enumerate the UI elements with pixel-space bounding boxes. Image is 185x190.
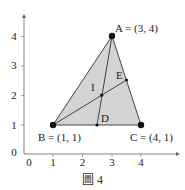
y-tick-1: 1 (11, 119, 17, 131)
y-tick-2: 2 (11, 89, 17, 101)
label-a: A = (3, 4) (115, 22, 158, 35)
y-tick-3: 3 (11, 59, 17, 71)
y-axis-arrow-icon (22, 14, 26, 18)
point-c (138, 122, 144, 128)
diagram-canvas: 0 1 2 3 4 0 1 2 3 4 A = (3, 4) B = (1, 1… (0, 0, 185, 190)
x-tick-labels: 0 1 2 3 4 (26, 156, 144, 168)
point-b (50, 122, 56, 128)
point-d (95, 123, 98, 126)
x-tick-1: 1 (50, 156, 56, 168)
y-tick-0: 0 (11, 146, 17, 158)
x-tick-2: 2 (80, 156, 86, 168)
label-i: I (91, 81, 95, 93)
label-c: C = (4, 1) (130, 131, 173, 144)
x-tick-4: 4 (138, 156, 144, 168)
y-tick-4: 4 (11, 30, 17, 42)
label-d: D (101, 112, 109, 124)
label-e: E (116, 69, 123, 81)
figure-caption: 圖 4 (0, 170, 185, 188)
point-i (100, 94, 103, 97)
y-tick-labels: 0 1 2 3 4 (11, 30, 17, 158)
point-e (125, 78, 128, 81)
label-b: B = (1, 1) (38, 131, 81, 144)
x-axis-arrow-icon (176, 152, 180, 156)
x-tick-3: 3 (109, 156, 115, 168)
x-tick-0: 0 (26, 156, 32, 168)
